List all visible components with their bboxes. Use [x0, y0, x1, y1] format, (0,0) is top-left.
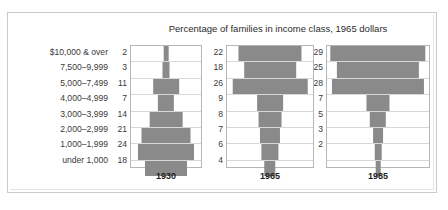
bar-segment: [259, 112, 282, 127]
data-value-label: 9: [206, 91, 223, 106]
income-class-label: 7,500–9,999: [18, 60, 108, 75]
bar-segment: [366, 95, 389, 110]
bar-segment: [150, 112, 183, 127]
chart-panel-1965: [226, 45, 314, 168]
data-value-label: 18: [110, 153, 127, 168]
bar-segment: [257, 95, 283, 110]
bar-segment: [261, 144, 278, 159]
bar-segment: [238, 46, 301, 61]
chart-row: [227, 46, 313, 62]
chart-row: [131, 46, 201, 62]
chart-row: [327, 112, 429, 128]
data-value-label: 11: [110, 76, 127, 91]
value-column-1930: 2311714212418: [110, 45, 127, 168]
data-value-label: 6: [206, 137, 223, 152]
bar-segment: [233, 79, 308, 94]
year-label-1965: 1965: [226, 171, 314, 181]
bar-segment: [138, 144, 194, 159]
bar-segment: [163, 62, 170, 77]
bar-segment: [244, 62, 296, 77]
bar-segment: [260, 128, 280, 143]
bar-segment: [375, 144, 382, 159]
chart-panel-1930: [130, 45, 202, 168]
bar-segment: [164, 46, 169, 61]
data-value-label: 26: [206, 76, 223, 91]
data-value-label: 7: [206, 122, 223, 137]
data-value-label: 24: [110, 137, 127, 152]
data-value-label: 18: [206, 60, 223, 75]
bar-segment: [142, 128, 191, 143]
chart-row: [227, 79, 313, 95]
income-class-label: 4,000–4,999: [18, 91, 108, 106]
data-value-label: 4: [206, 153, 223, 168]
chart-row: [327, 46, 429, 62]
data-value-label: 3: [110, 60, 127, 75]
chart-row: [327, 62, 429, 78]
data-value-label: 7: [110, 91, 127, 106]
chart-row: [227, 128, 313, 144]
bar-segment: [337, 62, 419, 77]
chart-row: [131, 112, 201, 128]
chart-row: [327, 144, 429, 160]
data-value-label: 2: [110, 45, 127, 60]
chart-row: [227, 144, 313, 160]
income-class-label: 1,000–1,999: [18, 137, 108, 152]
bar-segment: [370, 112, 386, 127]
income-class-labels: $10,000 & over7,500–9,9995,000–7,4994,00…: [18, 45, 108, 168]
chart-row: [227, 112, 313, 128]
bar-segment: [158, 95, 174, 110]
income-class-label: 3,000–3,999: [18, 107, 108, 122]
bar-segment: [153, 79, 179, 94]
data-value-label: 14: [110, 107, 127, 122]
income-class-label: under 1,000: [18, 153, 108, 168]
chart-row: [131, 128, 201, 144]
year-label-1930: 1930: [130, 171, 202, 181]
chart-row: [327, 95, 429, 111]
data-value-label: 8: [206, 107, 223, 122]
income-class-label: $10,000 & over: [18, 45, 108, 60]
chart-row: [131, 62, 201, 78]
chart-row: [131, 95, 201, 111]
bar-segment: [373, 128, 383, 143]
chart-row: [227, 62, 313, 78]
data-value-label: 21: [110, 122, 127, 137]
chart-row: [131, 79, 201, 95]
bar-segment: [330, 46, 425, 61]
figure-container: Percentage of families in income class, …: [0, 0, 448, 210]
chart-panel-1985: [326, 45, 430, 168]
chart-title: Percentage of families in income class, …: [132, 23, 424, 34]
income-class-label: 5,000–7,499: [18, 76, 108, 91]
chart-row: [227, 95, 313, 111]
chart-row: [131, 144, 201, 160]
chart-row: [327, 128, 429, 144]
year-label-1985: 1985: [326, 171, 430, 181]
data-value-label: 22: [206, 45, 223, 60]
value-column-1965: 22182698764: [206, 45, 223, 168]
income-class-label: 2,000–2,999: [18, 122, 108, 137]
chart-row: [327, 79, 429, 95]
bar-segment: [332, 79, 424, 94]
